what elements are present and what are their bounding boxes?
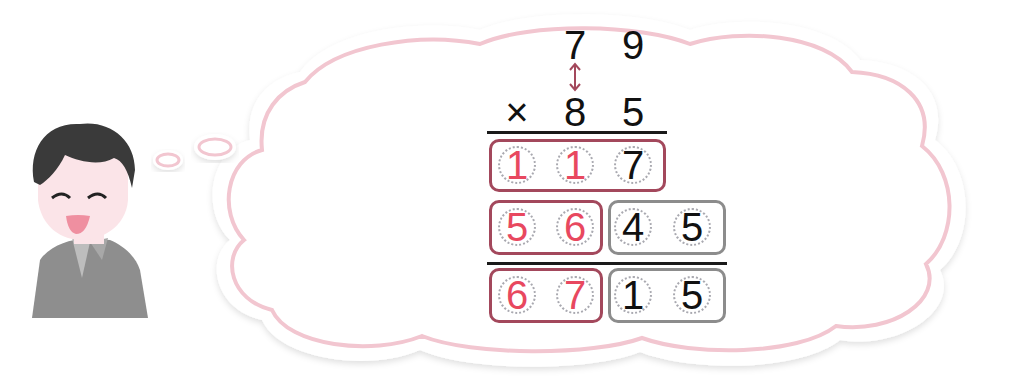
double-arrow-vertical-icon bbox=[568, 62, 582, 92]
partial-product-1-digit: 7 bbox=[613, 145, 653, 185]
multiplicand-tens: 7 bbox=[555, 25, 595, 65]
partial-product-2-digit: 5 bbox=[672, 207, 712, 247]
partial-product-1-digit: 1 bbox=[497, 145, 537, 185]
divider-line bbox=[487, 131, 667, 134]
smiling-boy-icon bbox=[10, 110, 160, 320]
multiplicand-ones: 9 bbox=[613, 25, 653, 65]
multiply-operator: × bbox=[497, 92, 537, 132]
sum-line bbox=[487, 262, 727, 265]
result-digit: 1 bbox=[613, 275, 653, 315]
partial-product-2-digit: 6 bbox=[555, 207, 595, 247]
partial-product-2-digit: 5 bbox=[497, 207, 537, 247]
multiplier-ones: 5 bbox=[613, 92, 653, 132]
result-digit: 5 bbox=[672, 275, 712, 315]
result-digit: 6 bbox=[497, 275, 537, 315]
partial-product-1-digit: 1 bbox=[555, 145, 595, 185]
partial-product-2-digit: 4 bbox=[613, 207, 653, 247]
multiplier-tens: 8 bbox=[555, 92, 595, 132]
result-digit: 7 bbox=[555, 275, 595, 315]
